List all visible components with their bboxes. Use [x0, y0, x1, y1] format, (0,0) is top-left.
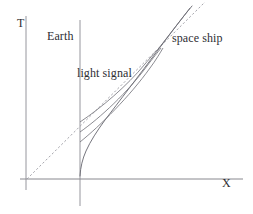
light-signal-ray-1 [80, 48, 163, 142]
space-ship-label: space ship [172, 32, 223, 44]
spacetime-diagram-figure: T X Earth light signal space ship [0, 0, 253, 214]
x-axis-label: X [222, 177, 231, 189]
t-axis-label: T [17, 17, 24, 29]
earth-label: Earth [47, 30, 74, 42]
light-signal-label: light signal [77, 67, 132, 79]
light-signal-ray-3 [80, 48, 159, 122]
